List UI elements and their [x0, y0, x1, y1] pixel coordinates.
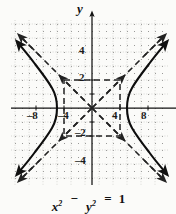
- y-tick-label-2: 2: [79, 72, 84, 83]
- y-axis-label: y: [77, 1, 83, 17]
- x-tick-label-4: 4: [112, 110, 117, 121]
- x-term-numerator: x2: [49, 200, 66, 214]
- y-exponent: 2: [92, 199, 96, 208]
- hyperbola-plot: [0, 0, 176, 192]
- y-tick-label-neg4: –4: [75, 155, 85, 166]
- equation-caption: x2 − y2 = 1: [0, 190, 176, 214]
- hyperbola-figure: y –8 –4 4 8 4 2 –2 –4 x2 − y2 = 1: [0, 0, 176, 214]
- x-term-fraction: x2: [49, 200, 66, 214]
- y-tick-label-4: 4: [79, 45, 84, 56]
- x-tick-label-neg4: –4: [58, 110, 68, 121]
- y-term-fraction: y2: [83, 200, 99, 214]
- minus-operator: −: [68, 191, 79, 207]
- x-exponent: 2: [58, 199, 62, 208]
- y-term-numerator: y2: [83, 200, 99, 214]
- x-tick-label-neg8: –8: [27, 110, 37, 121]
- y-tick-label-neg2: –2: [75, 127, 85, 138]
- equals-sign: =: [102, 191, 113, 207]
- x-tick-label-8: 8: [141, 110, 146, 121]
- hyperbola-equation: x2 − y2 = 1: [49, 191, 128, 214]
- rhs-one: 1: [117, 191, 128, 207]
